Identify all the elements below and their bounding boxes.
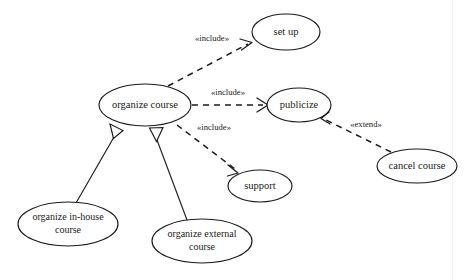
use-case-organize-course[interactable]: organize course (99, 84, 191, 126)
extend-publicize-stereotype: «extend» (350, 119, 382, 129)
use-case-organize-in-house-course-label-line2: course (55, 224, 82, 235)
use-case-publicize-label: publicize (280, 99, 319, 110)
relationship-generalization-in-house (76, 124, 123, 203)
use-case-set-up-label: set up (274, 26, 299, 37)
use-case-organize-external-course[interactable]: organize external course (152, 219, 252, 263)
relationship-generalization-external (150, 128, 188, 221)
use-case-organize-external-course-label-line2: course (189, 241, 216, 252)
relationship-extend-publicize: «extend» (321, 112, 391, 152)
use-case-support-label: support (244, 180, 276, 191)
use-case-organize-external-course-label-line1: organize external (168, 228, 237, 239)
use-case-cancel-course[interactable]: cancel course (377, 149, 457, 183)
use-case-diagram-canvas: «include» «include» «include» «extend» (0, 0, 471, 280)
generalization-in-house-triangle (110, 124, 123, 139)
generalization-external-line (157, 140, 187, 220)
include-set-up-line (168, 44, 248, 86)
include-support-stereotype: «include» (197, 122, 231, 132)
generalization-external-triangle (150, 128, 164, 142)
relationship-include-support: «include» (177, 122, 238, 176)
diagram-svg: «include» «include» «include» «extend» (0, 0, 471, 280)
use-case-organize-course-label: organize course (112, 99, 178, 110)
use-case-publicize[interactable]: publicize (267, 88, 331, 122)
generalization-in-house-line (76, 137, 114, 203)
use-case-set-up[interactable]: set up (252, 14, 320, 50)
use-case-organize-in-house-course[interactable]: organize in-house course (18, 202, 118, 246)
use-case-organize-in-house-course-label-line1: organize in-house (32, 211, 104, 222)
relationship-include-publicize: «include» (192, 87, 268, 112)
include-publicize-stereotype: «include» (211, 87, 245, 97)
use-case-cancel-course-label: cancel course (389, 160, 446, 171)
relationship-include-set-up: «include» (168, 33, 252, 86)
include-set-up-stereotype: «include» (195, 33, 229, 43)
use-case-support[interactable]: support (228, 170, 292, 202)
